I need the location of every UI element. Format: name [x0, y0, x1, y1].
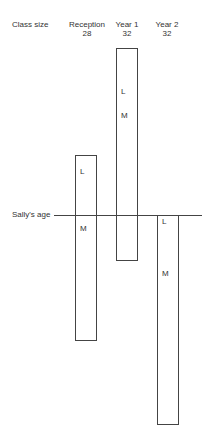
column-name: Year 1 [116, 20, 139, 29]
sallys-age-label: Sally's age [12, 210, 50, 219]
class-size-value: 32 [152, 29, 182, 38]
mark-m: M [80, 224, 87, 233]
sallys-age-line [54, 215, 202, 216]
column-header-year1: Year 1 32 [112, 20, 142, 38]
age-range-bar-reception [75, 155, 97, 341]
column-header-reception: Reception 28 [67, 20, 107, 38]
class-size-heading: Class size [12, 20, 48, 29]
column-header-year2: Year 2 32 [152, 20, 182, 38]
class-size-value: 32 [112, 29, 142, 38]
mark-l: L [121, 87, 125, 96]
mark-m: M [162, 269, 169, 278]
mark-m: M [121, 111, 128, 120]
age-range-bar-year2 [157, 215, 179, 425]
class-size-value: 28 [67, 29, 107, 38]
column-name: Reception [69, 20, 105, 29]
column-name: Year 2 [156, 20, 179, 29]
mark-l: L [80, 167, 84, 176]
mark-l: L [162, 217, 166, 226]
age-range-bar-year1 [116, 48, 138, 261]
